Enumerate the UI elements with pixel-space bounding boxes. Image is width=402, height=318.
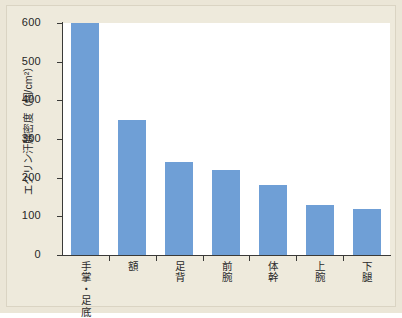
bar bbox=[165, 162, 193, 255]
x-tick-mark bbox=[343, 256, 344, 261]
y-tick-label: 200 bbox=[1, 172, 41, 183]
x-tick-mark bbox=[296, 256, 297, 261]
x-axis-label-text: 下腿 bbox=[361, 261, 373, 284]
y-tick-label: 100 bbox=[1, 210, 41, 221]
y-tick-label: 600 bbox=[1, 17, 41, 28]
x-axis-label: 前腕 bbox=[211, 261, 241, 284]
y-tick-label: 300 bbox=[1, 133, 41, 144]
x-tick-mark bbox=[203, 256, 204, 261]
x-axis-label-text: 足背 bbox=[173, 261, 185, 284]
figure-canvas: エクリン汗腺密度（個/cm²） 0100200300400500600 手掌・足… bbox=[6, 5, 396, 307]
x-tick-mark bbox=[156, 256, 157, 261]
x-axis-label-text: 手掌・足底 bbox=[79, 261, 91, 318]
bar bbox=[259, 185, 287, 255]
y-tick-mark bbox=[57, 100, 62, 101]
x-axis-label: 体幹 bbox=[258, 261, 288, 284]
x-axis-label-text: 体幹 bbox=[267, 261, 279, 284]
x-axis-label: 足背 bbox=[164, 261, 194, 284]
bar bbox=[306, 205, 334, 255]
y-tick-label: 500 bbox=[1, 56, 41, 67]
x-tick-mark bbox=[249, 256, 250, 261]
x-axis-label-text: 前腕 bbox=[220, 261, 232, 284]
y-tick-mark bbox=[57, 62, 62, 63]
y-tick-mark bbox=[57, 216, 62, 217]
y-axis-line bbox=[62, 22, 63, 256]
bar bbox=[353, 209, 381, 255]
y-tick-mark bbox=[57, 178, 62, 179]
y-tick-label: 400 bbox=[1, 94, 41, 105]
x-axis-line bbox=[62, 255, 391, 256]
x-axis-label-text: 上腕 bbox=[314, 261, 326, 284]
x-axis-label: 上腕 bbox=[305, 261, 335, 284]
x-axis-label: 手掌・足底 bbox=[70, 261, 100, 318]
y-tick-mark bbox=[57, 139, 62, 140]
x-axis-label-text: 額 bbox=[126, 261, 138, 272]
y-tick-mark bbox=[57, 255, 62, 256]
bar bbox=[212, 170, 240, 255]
x-axis-label: 額 bbox=[117, 261, 147, 272]
y-tick-mark bbox=[57, 23, 62, 24]
bar bbox=[71, 23, 99, 255]
x-axis-label: 下腿 bbox=[352, 261, 382, 284]
bar bbox=[118, 120, 146, 255]
x-tick-mark bbox=[109, 256, 110, 261]
y-tick-label: 0 bbox=[1, 249, 41, 260]
